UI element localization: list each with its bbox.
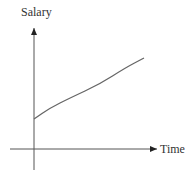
y-axis-label: Salary — [21, 6, 52, 18]
x-axis-label: Time — [160, 143, 185, 155]
salary-curve — [34, 58, 144, 119]
